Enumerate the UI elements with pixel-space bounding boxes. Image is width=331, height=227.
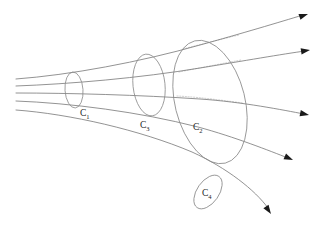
arrow-head-icon [298, 11, 309, 20]
cross-section-curve-c3 [130, 52, 168, 117]
diagram-canvas: C1 C3 C2 C4 [0, 0, 331, 227]
curve-label-subscript: 1 [86, 113, 89, 120]
curve-label-c2: C2 [193, 122, 203, 134]
arrow-head-icon [263, 205, 273, 216]
curve-label-subscript: 2 [199, 127, 202, 134]
hidden-stream-segments [177, 35, 243, 103]
stream-line [16, 51, 305, 86]
cross-section-curve-c2 [161, 32, 259, 171]
stream-arrowheads [263, 11, 310, 216]
curve-label-subscript: 4 [208, 193, 212, 200]
curve-label-c4: C4 [202, 188, 212, 200]
flow-tube-diagram: C1 C3 C2 C4 [0, 0, 331, 227]
stream-lines [16, 15, 305, 208]
curve-label-c1: C1 [80, 108, 90, 120]
curve-labels: C1 C3 C2 C4 [80, 108, 212, 200]
curve-label-c3: C3 [140, 120, 150, 132]
curve-label-subscript: 3 [146, 125, 149, 132]
arrow-head-icon [284, 154, 295, 163]
cross-section-curves [64, 32, 259, 213]
cross-section-curve-c1 [64, 71, 84, 108]
arrow-head-icon [301, 47, 311, 55]
arrow-head-icon [300, 110, 310, 118]
stream-line [16, 15, 303, 79]
